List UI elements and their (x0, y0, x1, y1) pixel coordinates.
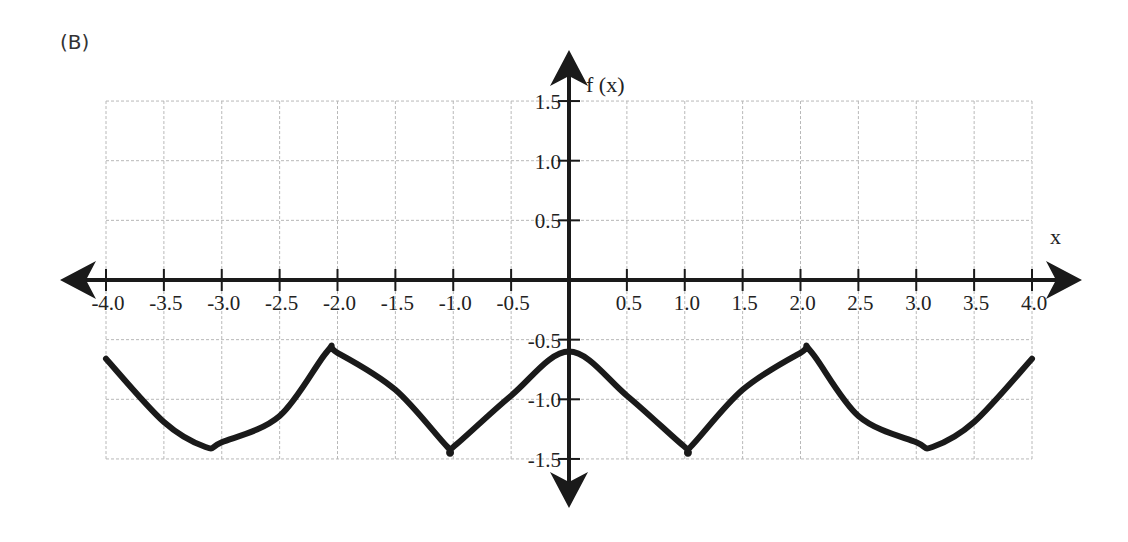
y-tick-label: -1.0 (528, 388, 561, 412)
x-tick-label: 0.5 (616, 291, 642, 315)
x-tick-label: -3.5 (149, 291, 182, 315)
x-tick-label: 3.0 (905, 291, 931, 315)
x-axis-title: x (1050, 224, 1061, 249)
x-tick-label: -3.0 (207, 291, 240, 315)
x-tick-label: -0.5 (497, 291, 530, 315)
x-tick-label: 1.5 (732, 291, 758, 315)
axes (60, 50, 1082, 508)
x-tick-label: -2.5 (265, 291, 298, 315)
x-tick-label: 2.0 (789, 291, 815, 315)
y-tick-label: -0.5 (528, 329, 561, 353)
y-tick-label: -1.5 (528, 448, 561, 472)
x-tick-label: 1.0 (674, 291, 700, 315)
x-tick-label: 3.5 (963, 291, 989, 315)
x-tick-label: 4.0 (1021, 291, 1047, 315)
y-tick-label: 1.5 (535, 90, 561, 114)
x-tick-label: -2.0 (323, 291, 356, 315)
x-tick-label: -1.5 (381, 291, 414, 315)
x-tick-label: -1.0 (439, 291, 472, 315)
x-tick-label: -4.0 (91, 291, 124, 315)
x-tick-label: 2.5 (847, 291, 873, 315)
y-axis-title: f (x) (586, 72, 624, 97)
function-plot: -4.0-3.5-3.0-2.5-2.0-1.5-1.0-0.50.51.01.… (0, 0, 1128, 542)
y-tick-label: 0.5 (535, 209, 561, 233)
y-tick-label: 1.0 (535, 150, 561, 174)
